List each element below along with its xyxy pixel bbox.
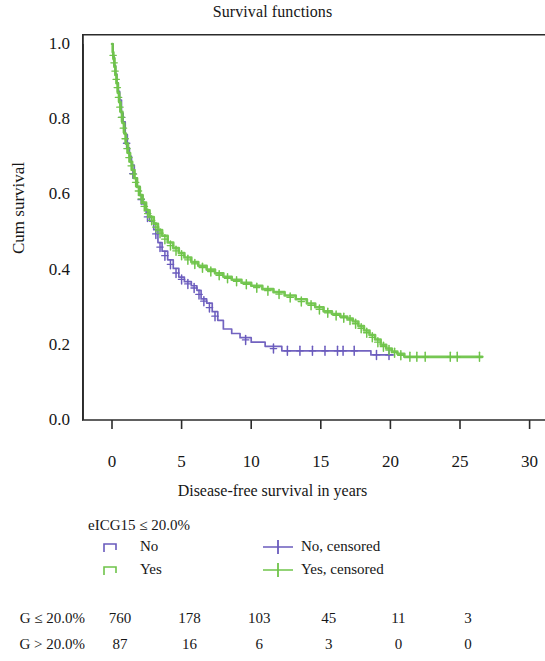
censor-mark [340, 346, 346, 355]
x-tick-label: 25 [440, 452, 480, 472]
plus-line-icon-no-censored [263, 539, 293, 555]
risk-table-cell: 87 [97, 632, 143, 656]
y-axis-title: Cum survival [9, 118, 29, 298]
risk-row-label: G ≤ 20.0% [0, 606, 85, 630]
legend-row: Yes Yes, censored [88, 558, 508, 581]
step-line-icon-yes [102, 562, 132, 578]
legend-row: No No, censored [88, 535, 508, 558]
censor-mark [407, 352, 413, 361]
x-tick-label: 5 [162, 452, 202, 472]
risk-table-cell: 11 [375, 606, 421, 630]
y-axis-tick-labels: 0.00.20.40.60.81.0 [24, 0, 70, 460]
y-tick-label: 0.2 [26, 336, 70, 353]
chart-title: Survival functions [0, 3, 545, 21]
censor-mark [242, 335, 248, 344]
legend-label: Yes, censored [301, 561, 384, 578]
series-yes [110, 44, 483, 361]
legend-label: No, censored [301, 538, 380, 555]
survival-functions-figure: Survival functions 0.00.20.40.60.81.0 Cu… [0, 0, 545, 661]
x-axis-title: Disease-free survival in years [0, 482, 545, 500]
censor-mark [447, 352, 453, 361]
legend-label: No [140, 538, 158, 555]
legend-label: Yes [140, 561, 162, 578]
legend: eICG15 ≤ 20.0% No No, censored [88, 516, 508, 581]
censor-mark [270, 344, 276, 353]
risk-table-row: G ≤ 20.0%76017810345113 [0, 606, 545, 632]
censor-mark [422, 352, 428, 361]
y-tick-label: 1.0 [26, 35, 70, 52]
legend-entry-yes: Yes [102, 558, 162, 581]
censor-mark [322, 346, 328, 355]
risk-table-row: G > 20.0%87166300 [0, 632, 545, 658]
y-tick-label: 0.4 [26, 261, 70, 278]
risk-table-cell: 6 [236, 632, 282, 656]
y-tick-label: 0.6 [26, 185, 70, 202]
censor-mark [373, 350, 379, 359]
censor-mark [284, 346, 290, 355]
risk-table-cell: 103 [236, 606, 282, 630]
x-tick-label: 30 [510, 452, 545, 472]
x-tick-label: 15 [301, 452, 341, 472]
x-tick-label: 20 [370, 452, 410, 472]
censor-mark [185, 279, 191, 288]
risk-table-cell: 178 [167, 606, 213, 630]
censor-mark [309, 346, 315, 355]
risk-table-cell: 0 [375, 632, 421, 656]
censor-mark [265, 286, 271, 295]
censor-mark [224, 274, 230, 283]
y-tick-label: 0.8 [26, 110, 70, 127]
censor-mark [414, 352, 420, 361]
step-line-icon-no [102, 539, 132, 555]
risk-table-cell: 3 [306, 632, 352, 656]
series-no [112, 44, 393, 359]
plus-line-icon-yes-censored [263, 562, 293, 578]
risk-row-label: G > 20.0% [0, 632, 85, 656]
legend-entry-yes-censored: Yes, censored [263, 558, 384, 581]
censor-mark [476, 352, 482, 361]
censor-mark [454, 352, 460, 361]
censor-mark [333, 311, 339, 320]
risk-table-cell: 760 [97, 606, 143, 630]
x-axis-tick-labels: 051015202530 [0, 452, 545, 476]
legend-title: eICG15 ≤ 20.0% [88, 516, 508, 535]
censor-mark [243, 280, 249, 289]
censor-mark [351, 346, 357, 355]
censor-mark [233, 277, 239, 286]
censor-mark [325, 308, 331, 317]
risk-table-cell: 0 [445, 632, 491, 656]
numbers-at-risk-table: G ≤ 20.0%76017810345113G > 20.0%87166300 [0, 606, 545, 658]
x-tick-label: 0 [92, 452, 132, 472]
legend-entry-no-censored: No, censored [263, 535, 380, 558]
survival-curves-svg [82, 34, 545, 442]
plot-area [82, 34, 545, 442]
risk-table-cell: 16 [167, 632, 213, 656]
x-tick-label: 10 [231, 452, 271, 472]
y-tick-label: 0.0 [26, 411, 70, 428]
legend-entry-no: No [102, 535, 158, 558]
risk-table-cell: 45 [306, 606, 352, 630]
censor-mark [297, 346, 303, 355]
risk-table-cell: 3 [445, 606, 491, 630]
